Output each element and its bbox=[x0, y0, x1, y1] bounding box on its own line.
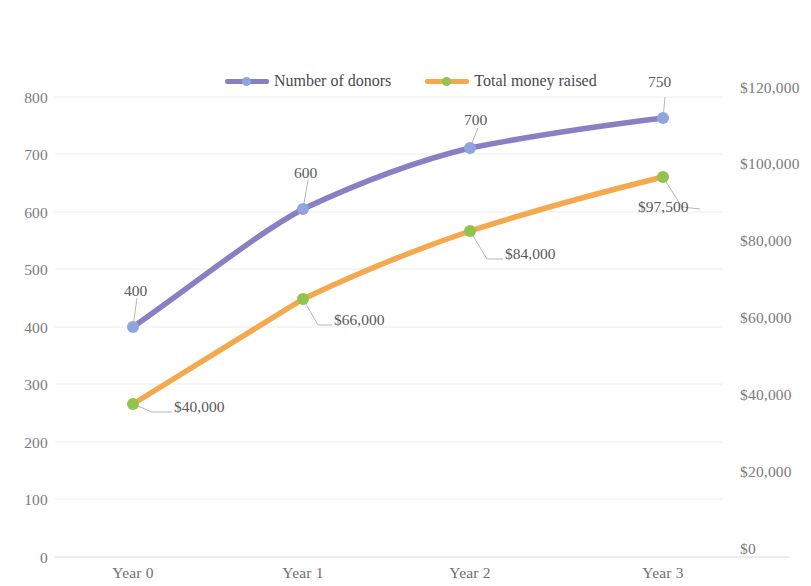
legend-item-donors[interactable]: Number of donors bbox=[225, 72, 391, 90]
y-left-tick-800: 800 bbox=[0, 89, 48, 107]
y-left-tick-400: 400 bbox=[0, 319, 48, 337]
y-left-tick-500: 500 bbox=[0, 261, 48, 279]
data-label-money-year-3: $97,500 bbox=[638, 198, 688, 216]
data-label-donors-year-0: 400 bbox=[124, 282, 147, 300]
data-label-money-year-0: $40,000 bbox=[174, 398, 224, 416]
series-line-money bbox=[133, 177, 663, 404]
data-label-donors-year-2: 700 bbox=[464, 111, 487, 129]
y-right-tick-40000: $40,000 bbox=[740, 386, 811, 404]
x-axis-label-year-2: Year 2 bbox=[410, 564, 530, 582]
y-left-tick-300: 300 bbox=[0, 376, 48, 394]
y-right-tick-20000: $20,000 bbox=[740, 463, 811, 481]
line-chart: 800 700 600 500 400 300 200 100 0 $120,0… bbox=[0, 0, 811, 586]
y-right-tick-60000: $60,000 bbox=[740, 309, 811, 327]
y-right-tick-0: $0 bbox=[740, 540, 811, 558]
y-left-tick-700: 700 bbox=[0, 146, 48, 164]
data-label-money-year-2: $84,000 bbox=[505, 245, 555, 263]
x-axis-label-year-1: Year 1 bbox=[243, 564, 363, 582]
series-line-donors bbox=[133, 118, 663, 327]
data-label-money-year-1: $66,000 bbox=[334, 311, 384, 329]
data-label-donors-year-1: 600 bbox=[294, 164, 317, 182]
y-left-tick-0: 0 bbox=[0, 549, 48, 567]
y-right-tick-100000: $100,000 bbox=[740, 155, 811, 173]
legend-item-money[interactable]: Total money raised bbox=[425, 72, 596, 90]
x-axis-label-year-3: Year 3 bbox=[603, 564, 723, 582]
y-left-tick-600: 600 bbox=[0, 204, 48, 222]
chart-legend: Number of donors Total money raised bbox=[225, 72, 597, 90]
legend-label-donors: Number of donors bbox=[274, 72, 391, 90]
y-right-tick-80000: $80,000 bbox=[740, 232, 811, 250]
legend-label-money: Total money raised bbox=[474, 72, 596, 90]
legend-key-donors-icon bbox=[225, 74, 269, 88]
series-markers-money bbox=[127, 171, 669, 410]
x-axis-label-year-0: Year 0 bbox=[73, 564, 193, 582]
legend-key-money-icon bbox=[425, 74, 469, 88]
y-left-tick-200: 200 bbox=[0, 434, 48, 452]
series-markers-donors bbox=[127, 112, 669, 333]
gridlines bbox=[55, 97, 722, 499]
y-right-tick-120000: $120,000 bbox=[740, 79, 811, 97]
y-left-tick-100: 100 bbox=[0, 491, 48, 509]
data-label-donors-year-3: 750 bbox=[648, 73, 671, 91]
